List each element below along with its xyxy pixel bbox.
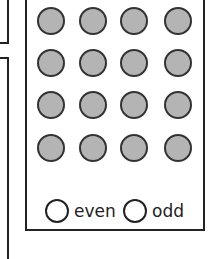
dot (164, 49, 192, 77)
dot (37, 91, 65, 119)
dot (120, 91, 148, 119)
dot (37, 49, 65, 77)
dot (164, 91, 192, 119)
dot (164, 134, 192, 162)
option-odd-label: odd (152, 201, 184, 221)
dot (164, 7, 192, 35)
option-even[interactable]: even (45, 199, 116, 223)
dot (120, 134, 148, 162)
option-odd[interactable]: odd (123, 199, 184, 223)
option-even-label: even (74, 201, 116, 221)
dot (79, 91, 107, 119)
left-top-box (0, 0, 9, 44)
radio-even[interactable] (45, 199, 69, 223)
left-bottom-box (0, 57, 9, 259)
dot (79, 134, 107, 162)
dot (120, 7, 148, 35)
radio-odd[interactable] (123, 199, 147, 223)
dot (79, 49, 107, 77)
dot (37, 7, 65, 35)
dot (37, 134, 65, 162)
dot (120, 49, 148, 77)
dot (79, 7, 107, 35)
